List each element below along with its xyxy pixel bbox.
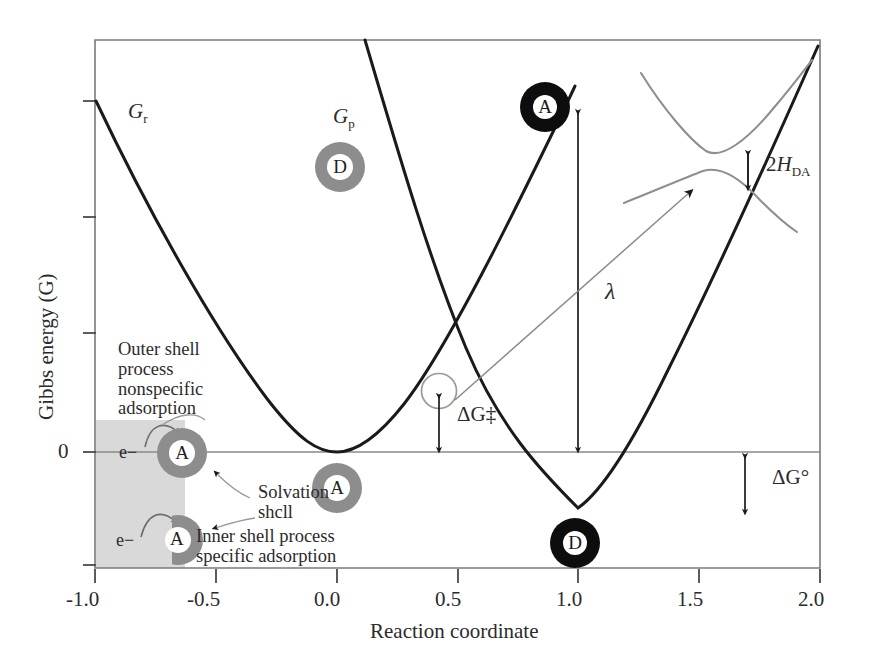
sphere-core-label: A (169, 440, 195, 466)
inner-shell-annotation: Inner shell process specific adsorption (196, 527, 336, 567)
coupling-label-sub: DA (792, 164, 811, 179)
sphere-product-top-D: D (315, 142, 365, 192)
reactant-curve-label-base: G (128, 99, 143, 123)
product-curve-label-base: G (333, 104, 348, 128)
product-curve-Gp (365, 40, 818, 508)
x-tick-label-6: 2.0 (798, 588, 824, 612)
reactant-curve-label: Gr (128, 100, 148, 127)
electron-label-outer-text: e− (119, 442, 137, 462)
y-axis-ticks (83, 101, 96, 565)
x-tick-label-0: -1.0 (66, 588, 99, 612)
activation-energy-label: ΔG‡ (457, 403, 496, 427)
inset-upper-adiabatic-curve (641, 60, 812, 153)
marcus-energy-diagram: D A A D A A Gr Gp Outer shell process no… (0, 0, 874, 664)
sphere-reactant-top-A: A (520, 82, 570, 132)
x-axis-title: Reaction coordinate (370, 620, 539, 644)
y-axis-title: Gibbs energy (G) (34, 273, 59, 420)
lambda-label: λ (605, 278, 615, 305)
y-axis-zero-label: 0 (58, 440, 69, 464)
x-tick-label-4: 1.0 (556, 588, 582, 612)
inner-shell-species-letter: A (170, 528, 184, 549)
reactant-curve-label-sub: r (143, 111, 147, 126)
sphere-core-label: D (327, 154, 353, 180)
electron-label-outer: e− (119, 442, 137, 462)
coupling-label-italic: H (777, 152, 792, 176)
x-tick-label-2: 0.0 (314, 588, 340, 612)
sphere-outer-shell-species-A: A (157, 428, 207, 478)
electron-label-inner: e− (116, 530, 134, 550)
electron-label-inner-text: e− (116, 530, 134, 550)
x-tick-label-1: -0.5 (187, 588, 220, 612)
x-tick-label-5: 1.5 (677, 588, 703, 612)
product-curve-label: Gp (333, 105, 355, 132)
coupling-label-prefix: 2 (766, 152, 777, 176)
x-axis-ticks (95, 569, 820, 583)
solvation-shell-leader-upper (216, 473, 250, 498)
outer-shell-annotation: Outer shell process nonspecific adsorpti… (118, 340, 203, 419)
solvation-shell-annotation: Solvation shcll (258, 483, 329, 523)
x-tick-label-3: 0.5 (435, 588, 461, 612)
sphere-core-label: D (563, 531, 587, 555)
sphere-product-min-D: D (550, 518, 600, 568)
sphere-core-label: A (533, 95, 557, 119)
inset-pointer-arrow (455, 192, 690, 400)
reaction-gibbs-energy-label: ΔG° (772, 466, 809, 490)
coupling-label: 2HDA (766, 153, 810, 180)
product-curve-label-sub: p (348, 116, 355, 131)
